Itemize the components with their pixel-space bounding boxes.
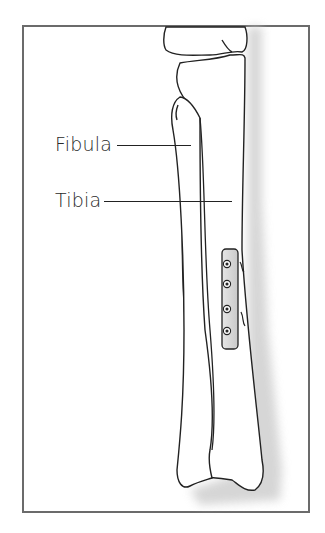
femur-condyle xyxy=(164,27,247,55)
bone-illustration xyxy=(0,0,325,533)
label-tibia: Tibia xyxy=(55,191,101,210)
screw-icon xyxy=(223,280,230,287)
leader-line-tibia xyxy=(104,201,232,202)
leader-line-fibula xyxy=(117,145,191,146)
screw-icon xyxy=(223,260,230,267)
screw-icon xyxy=(223,305,230,312)
screw-icon xyxy=(223,327,230,334)
label-fibula: Fibula xyxy=(55,135,112,154)
